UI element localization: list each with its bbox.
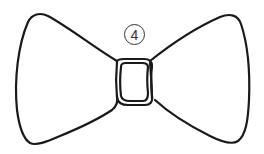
- bow-tie-left-wing: [16, 14, 117, 144]
- bow-tie-knot-inner: [120, 63, 148, 101]
- bow-tie-right-wing: [150, 15, 249, 143]
- number-label-badge: 4: [124, 24, 145, 45]
- bow-tie-drawing: [0, 0, 264, 154]
- number-label-text: 4: [131, 28, 139, 42]
- bow-tie-illustration: 4: [0, 0, 264, 154]
